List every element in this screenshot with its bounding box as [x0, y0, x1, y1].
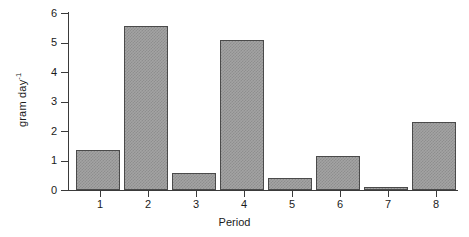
x-tick-6 [340, 191, 341, 197]
x-tick-2 [148, 191, 149, 197]
y-tick-label-4: 4 [35, 67, 57, 78]
x-tick-3 [196, 191, 197, 197]
x-tick-label-4: 4 [232, 199, 256, 210]
bar-period-1[interactable] [76, 150, 120, 190]
x-tick-label-7: 7 [376, 199, 400, 210]
y-tick-5 [61, 43, 68, 44]
x-tick-label-6: 6 [328, 199, 352, 210]
bar-period-4[interactable] [220, 40, 264, 190]
bar-period-8[interactable] [412, 122, 456, 190]
y-tick-label-3: 3 [35, 96, 57, 107]
bar-period-7[interactable] [364, 187, 408, 190]
bar-period-6[interactable] [316, 156, 360, 191]
y-tick-label-0: 0 [35, 185, 57, 196]
y-tick-label-1: 1 [35, 155, 57, 166]
x-tick-label-8: 8 [424, 199, 448, 210]
x-axis-line [68, 190, 458, 191]
y-axis-title-exponent: -1 [14, 73, 23, 80]
y-tick-label-6: 6 [35, 8, 57, 19]
bar-chart-figure: gram day-1 0 1 2 3 4 5 6 1 2 3 4 5 6 7 8 [0, 0, 469, 237]
y-axis-title-base: gram day [16, 80, 28, 127]
x-tick-8 [436, 191, 437, 197]
bar-period-3[interactable] [172, 173, 216, 190]
bar-period-5[interactable] [268, 178, 312, 190]
y-tick-label-5: 5 [35, 37, 57, 48]
y-tick-6 [61, 13, 68, 14]
y-tick-2 [61, 131, 68, 132]
x-tick-label-1: 1 [88, 199, 112, 210]
y-tick-1 [61, 161, 68, 162]
x-axis-title: Period [0, 216, 469, 228]
x-tick-label-2: 2 [136, 199, 160, 210]
y-tick-3 [61, 102, 68, 103]
y-tick-0 [61, 190, 68, 191]
x-tick-4 [244, 191, 245, 197]
x-tick-7 [388, 191, 389, 197]
x-tick-5 [292, 191, 293, 197]
bar-series [68, 13, 458, 190]
y-axis-title: gram day-1 [10, 40, 32, 160]
y-tick-label-2: 2 [35, 126, 57, 137]
x-tick-label-3: 3 [184, 199, 208, 210]
y-tick-4 [61, 72, 68, 73]
y-axis-title-text: gram day-1 [14, 73, 28, 128]
bar-period-2[interactable] [124, 26, 168, 190]
x-tick-1 [100, 191, 101, 197]
x-tick-label-5: 5 [280, 199, 304, 210]
